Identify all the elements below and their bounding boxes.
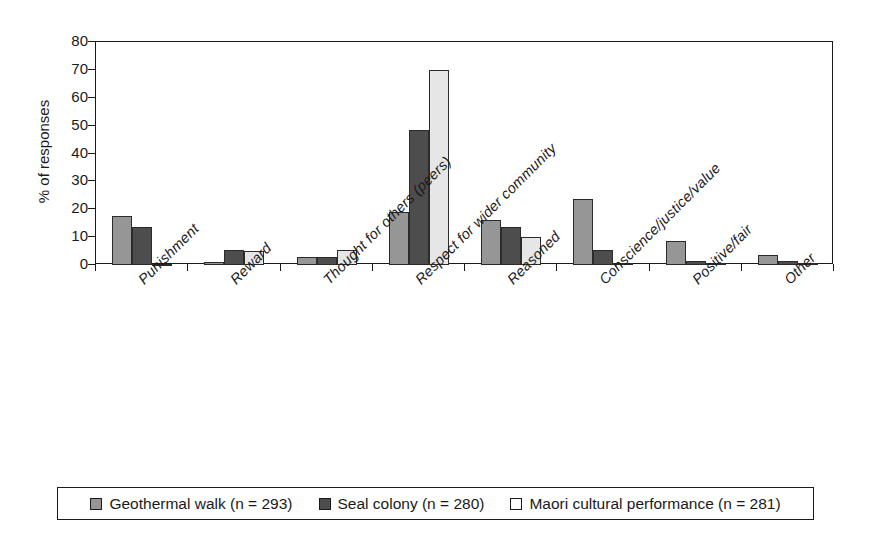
bar <box>481 220 501 265</box>
legend-entry: Geothermal walk (n = 293) <box>90 495 292 513</box>
bar <box>666 241 686 265</box>
legend-label: Maori cultural performance (n = 281) <box>529 495 780 513</box>
bar <box>204 262 224 265</box>
y-tick-label: 10 <box>48 228 88 243</box>
x-tick-mark <box>556 264 557 271</box>
y-tick-mark <box>88 153 95 154</box>
bar <box>758 255 778 265</box>
x-tick-mark <box>95 264 96 271</box>
legend-swatch-icon <box>319 498 331 510</box>
y-tick-label: 40 <box>48 145 88 160</box>
legend-entry: Maori cultural performance (n = 281) <box>510 495 780 513</box>
x-tick-mark <box>741 264 742 271</box>
x-tick-mark <box>280 264 281 271</box>
y-tick-mark <box>88 97 95 98</box>
x-tick-mark <box>649 264 650 271</box>
bar <box>573 199 593 265</box>
y-tick-label: 70 <box>48 61 88 76</box>
y-tick-label: 60 <box>48 89 88 104</box>
y-tick-label: 30 <box>48 172 88 187</box>
bar-chart-figure: % of responses 01020304050607080 Punishm… <box>0 0 870 549</box>
legend-swatch-icon <box>510 498 522 510</box>
x-tick-mark <box>372 264 373 271</box>
legend-label: Geothermal walk (n = 293) <box>109 495 292 513</box>
y-tick-label: 20 <box>48 200 88 215</box>
legend-label: Seal colony (n = 280) <box>338 495 485 513</box>
y-tick-mark <box>88 41 95 42</box>
y-tick-label: 50 <box>48 117 88 132</box>
x-tick-mark <box>833 264 834 271</box>
x-tick-mark <box>464 264 465 271</box>
y-tick-mark <box>88 264 95 265</box>
legend-swatch-icon <box>90 498 102 510</box>
y-tick-mark <box>88 125 95 126</box>
y-tick-label: 80 <box>48 33 88 48</box>
chart-legend: Geothermal walk (n = 293)Seal colony (n … <box>57 487 814 520</box>
y-tick-mark <box>88 236 95 237</box>
y-tick-mark <box>88 69 95 70</box>
y-tick-label: 0 <box>48 256 88 271</box>
bar <box>132 227 152 265</box>
bar <box>297 257 317 265</box>
y-tick-mark <box>88 180 95 181</box>
legend-entry: Seal colony (n = 280) <box>319 495 485 513</box>
bar <box>112 216 132 265</box>
y-tick-mark <box>88 208 95 209</box>
x-tick-mark <box>187 264 188 271</box>
bar <box>501 227 521 265</box>
